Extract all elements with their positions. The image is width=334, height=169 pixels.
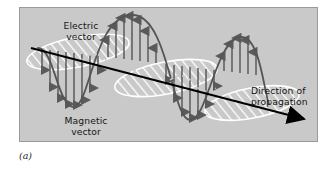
panel-caption: (a) bbox=[19, 150, 32, 161]
direction-of-propagation-label: Direction of propagation bbox=[251, 86, 318, 107]
figure-panel: Electric vector Magnetic vector Directio… bbox=[19, 7, 318, 142]
propagation-axis-arrow bbox=[31, 48, 304, 119]
magnetic-vector-label: Magnetic vector bbox=[55, 116, 117, 137]
em-wave-figure: Electric vector Magnetic vector Directio… bbox=[0, 0, 334, 169]
electric-vector-label: Electric vector bbox=[51, 21, 111, 42]
